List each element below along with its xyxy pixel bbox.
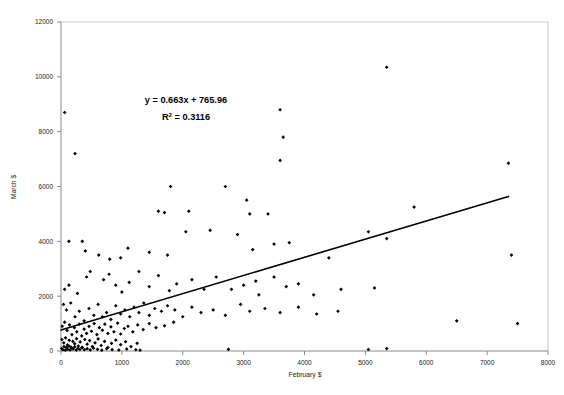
y-axis-title: March $ bbox=[10, 175, 17, 200]
r-squared-value: = 0.3116 bbox=[172, 112, 210, 122]
trendline-equation-label: y = 0.663x + 765.96 bbox=[145, 95, 227, 105]
x-tick-label: 8000 bbox=[541, 359, 556, 366]
x-tick-label: 3000 bbox=[236, 359, 251, 366]
x-tick-label: 7000 bbox=[480, 359, 495, 366]
y-tick-label: 12000 bbox=[35, 18, 53, 25]
figure-background bbox=[0, 0, 564, 395]
y-tick-label: 10000 bbox=[35, 73, 53, 80]
x-tick-label: 2000 bbox=[176, 359, 191, 366]
scatter-plot-figure: 020004000600080001000012000 010002000300… bbox=[0, 0, 564, 395]
chart-canvas: 020004000600080001000012000 010002000300… bbox=[0, 0, 564, 395]
x-tick-label: 4000 bbox=[297, 359, 312, 366]
x-tick-label: 1000 bbox=[115, 359, 130, 366]
y-tick-label: 2000 bbox=[39, 293, 54, 300]
x-tick-label: 6000 bbox=[419, 359, 434, 366]
x-tick-label: 0 bbox=[59, 359, 63, 366]
x-tick-label: 5000 bbox=[358, 359, 373, 366]
x-axis-title: February $ bbox=[289, 371, 322, 379]
y-tick-label: 6000 bbox=[39, 183, 54, 190]
y-tick-label: 0 bbox=[49, 347, 53, 354]
y-tick-label: 8000 bbox=[39, 128, 54, 135]
y-tick-label: 4000 bbox=[39, 238, 54, 245]
